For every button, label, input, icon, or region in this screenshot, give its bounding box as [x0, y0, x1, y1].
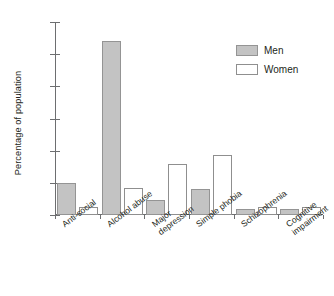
legend-item-men: Men: [236, 42, 298, 58]
y-tick-mark: [50, 86, 60, 87]
chart-legend: MenWomen: [236, 42, 298, 80]
legend-swatch-men: [236, 45, 258, 56]
y-tick-mark: [50, 151, 60, 152]
bar-chart: Percentage of population 051015202530 An…: [0, 0, 334, 296]
x-tick-mark: [144, 215, 145, 219]
bar-men-1: [102, 41, 121, 215]
x-tick-mark: [278, 215, 279, 219]
y-tick-mark: [50, 22, 60, 23]
legend-item-women: Women: [236, 61, 298, 77]
x-tick-mark: [234, 215, 235, 219]
x-tick-mark: [55, 215, 56, 219]
y-tick-mark: [50, 54, 60, 55]
y-tick-mark: [50, 119, 60, 120]
y-axis-title: Percentage of population: [13, 43, 23, 203]
x-tick-mark: [100, 215, 101, 219]
x-axis-label-5: Cognitive impairment: [284, 195, 330, 237]
legend-label-women: Women: [264, 64, 298, 75]
legend-label-men: Men: [264, 45, 283, 56]
legend-swatch-women: [236, 64, 258, 75]
